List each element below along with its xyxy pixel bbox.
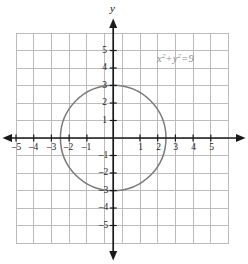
x-axis — [3, 134, 246, 142]
y-tick-label-4: 4 — [98, 63, 111, 73]
x-tick-label-3: 3 — [169, 143, 182, 153]
y-tick-label-2: 2 — [98, 98, 111, 108]
x-tick-label--3: –3 — [45, 143, 58, 153]
coordinate-plane-figure: y x2+y2=9 –5 –4 –3 –2 –1 1 2 3 4 5 5 4 3… — [0, 0, 248, 264]
x-tick-label-5: 5 — [205, 143, 218, 153]
y-tick-label--1: –1 — [96, 151, 111, 161]
equation-plus: + — [166, 53, 173, 64]
y-tick-label-1: 1 — [98, 116, 111, 126]
y-tick-label--4: –4 — [96, 203, 111, 213]
x-tick-label-1: 1 — [134, 143, 147, 153]
x-tick-label--1: –1 — [80, 143, 93, 153]
equation-rhs: 9 — [188, 53, 193, 64]
y-tick-label-5: 5 — [98, 46, 111, 56]
x-tick-label-2: 2 — [152, 143, 165, 153]
x-tick-label--4: –4 — [27, 143, 40, 153]
y-tick-label--2: –2 — [96, 168, 111, 178]
x-tick-label--2: –2 — [62, 143, 75, 153]
x-tick-label-4: 4 — [187, 143, 200, 153]
y-axis-title: y — [110, 3, 115, 14]
x-tick-label--5: –5 — [10, 143, 23, 153]
y-tick-label-3: 3 — [98, 81, 111, 91]
y-tick-label--5: –5 — [96, 221, 111, 231]
y-tick-label--3: –3 — [96, 186, 111, 196]
graph-canvas — [0, 0, 248, 264]
equation-label: x2+y2=9 — [157, 54, 194, 65]
